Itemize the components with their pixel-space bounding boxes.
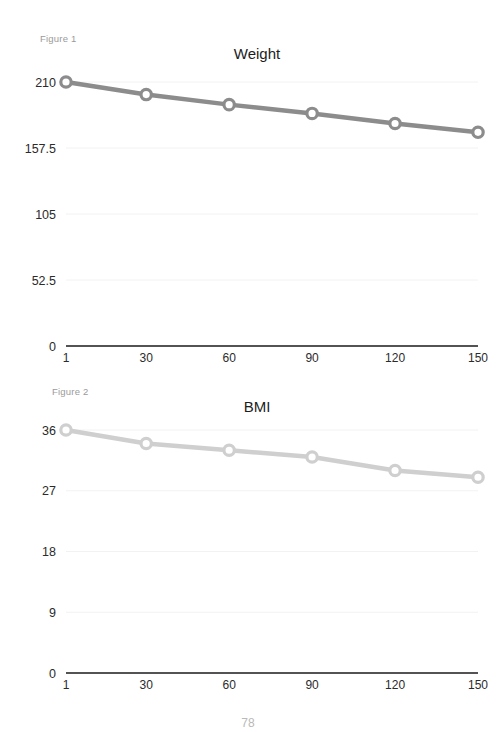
x-axis-tick-label: 150 <box>468 351 488 365</box>
x-axis-tick-label: 60 <box>222 351 236 365</box>
x-axis-tick-label: 120 <box>385 351 405 365</box>
x-axis-tick-label: 1 <box>63 678 70 692</box>
series-line <box>66 430 478 477</box>
y-axis-tick-label: 27 <box>42 484 56 498</box>
x-axis-tick-label: 150 <box>468 678 488 692</box>
x-axis-tick-label: 120 <box>385 678 405 692</box>
bmi-line-chart: 091827361306090120150 <box>0 372 496 702</box>
data-point-marker <box>224 445 234 455</box>
figure-bmi: Figure 2 BMI 091827361306090120150 <box>0 372 496 702</box>
weight-chart-plot: 052.5105157.52101306090120150 <box>0 0 496 380</box>
data-point-marker <box>307 452 317 462</box>
data-point-marker <box>141 89 151 99</box>
data-point-marker <box>473 472 483 482</box>
document-page: Figure 1 Weight 052.5105157.521013060901… <box>0 0 496 732</box>
y-axis-tick-label: 18 <box>42 545 56 559</box>
y-axis-tick-label: 9 <box>49 606 56 620</box>
x-axis-tick-label: 90 <box>305 678 319 692</box>
weight-line-chart: 052.5105157.52101306090120150 <box>0 0 496 380</box>
data-point-marker <box>61 425 71 435</box>
data-point-marker <box>307 108 317 118</box>
x-axis-tick-label: 1 <box>63 351 70 365</box>
y-axis-tick-label: 157.5 <box>25 142 56 156</box>
y-axis-tick-label: 36 <box>42 424 56 438</box>
data-point-marker <box>473 127 483 137</box>
y-axis-tick-label: 210 <box>35 76 56 90</box>
y-axis-tick-label: 105 <box>35 208 56 222</box>
y-axis-tick-label: 0 <box>49 340 56 354</box>
data-point-marker <box>390 118 400 128</box>
y-axis-tick-label: 0 <box>49 667 56 681</box>
page-number: 78 <box>0 716 496 732</box>
x-axis-tick-label: 60 <box>222 678 236 692</box>
bmi-chart-plot: 091827361306090120150 <box>0 372 496 702</box>
data-point-marker <box>224 99 234 109</box>
x-axis-tick-label: 30 <box>140 351 154 365</box>
data-point-marker <box>141 438 151 448</box>
y-axis-tick-label: 52.5 <box>32 274 56 288</box>
x-axis-tick-label: 30 <box>140 678 154 692</box>
data-point-marker <box>61 77 71 87</box>
x-axis-tick-label: 90 <box>305 351 319 365</box>
series-line <box>66 82 478 132</box>
figure-weight: Figure 1 Weight 052.5105157.521013060901… <box>0 0 496 380</box>
data-point-marker <box>390 465 400 475</box>
